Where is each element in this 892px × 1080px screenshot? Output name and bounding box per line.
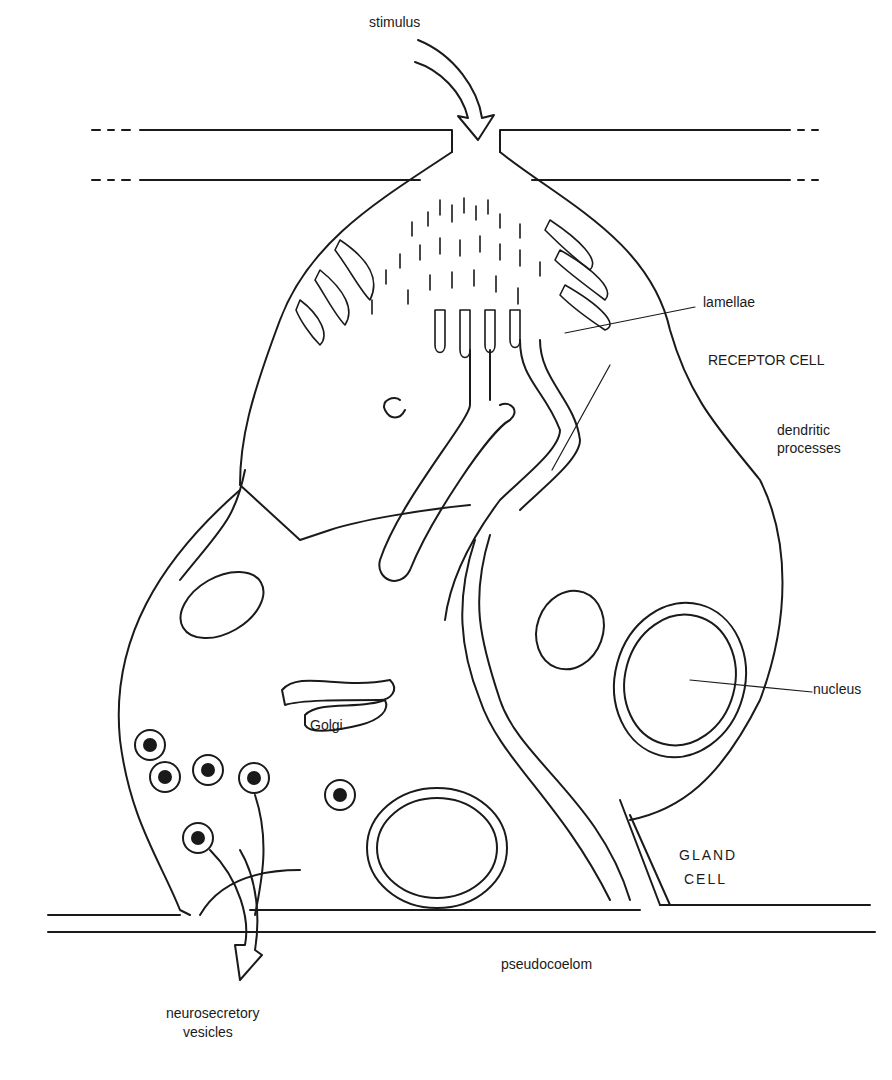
label-receptor-cell: RECEPTOR CELL: [708, 352, 824, 369]
label-cell: CELL: [684, 871, 727, 888]
receptor-cell-membrane: [180, 152, 870, 905]
label-lamellae: lamellae: [703, 294, 755, 311]
mitochondria: [169, 558, 615, 679]
stimulus-arrow: [415, 40, 494, 140]
label-processes: processes: [777, 440, 841, 457]
label-pseudocoelom: pseudocoelom: [501, 956, 592, 973]
label-vesicles: vesicles: [183, 1024, 233, 1041]
lamellae: [296, 198, 610, 358]
neurosecretory-arrow: [210, 795, 264, 980]
cell-diagram: [0, 0, 892, 1080]
label-neurosecretory: neurosecretory: [166, 1005, 259, 1022]
label-stimulus: stimulus: [369, 14, 420, 31]
label-golgi: Golgi: [310, 717, 343, 734]
label-dendritic: dendritic: [777, 422, 830, 439]
label-gland: GLAND: [679, 847, 737, 864]
vesicles: [135, 730, 355, 853]
gland-cell-membrane: [48, 490, 875, 932]
cuticle-lines: [92, 130, 818, 180]
label-nucleus: nucleus: [813, 681, 861, 698]
